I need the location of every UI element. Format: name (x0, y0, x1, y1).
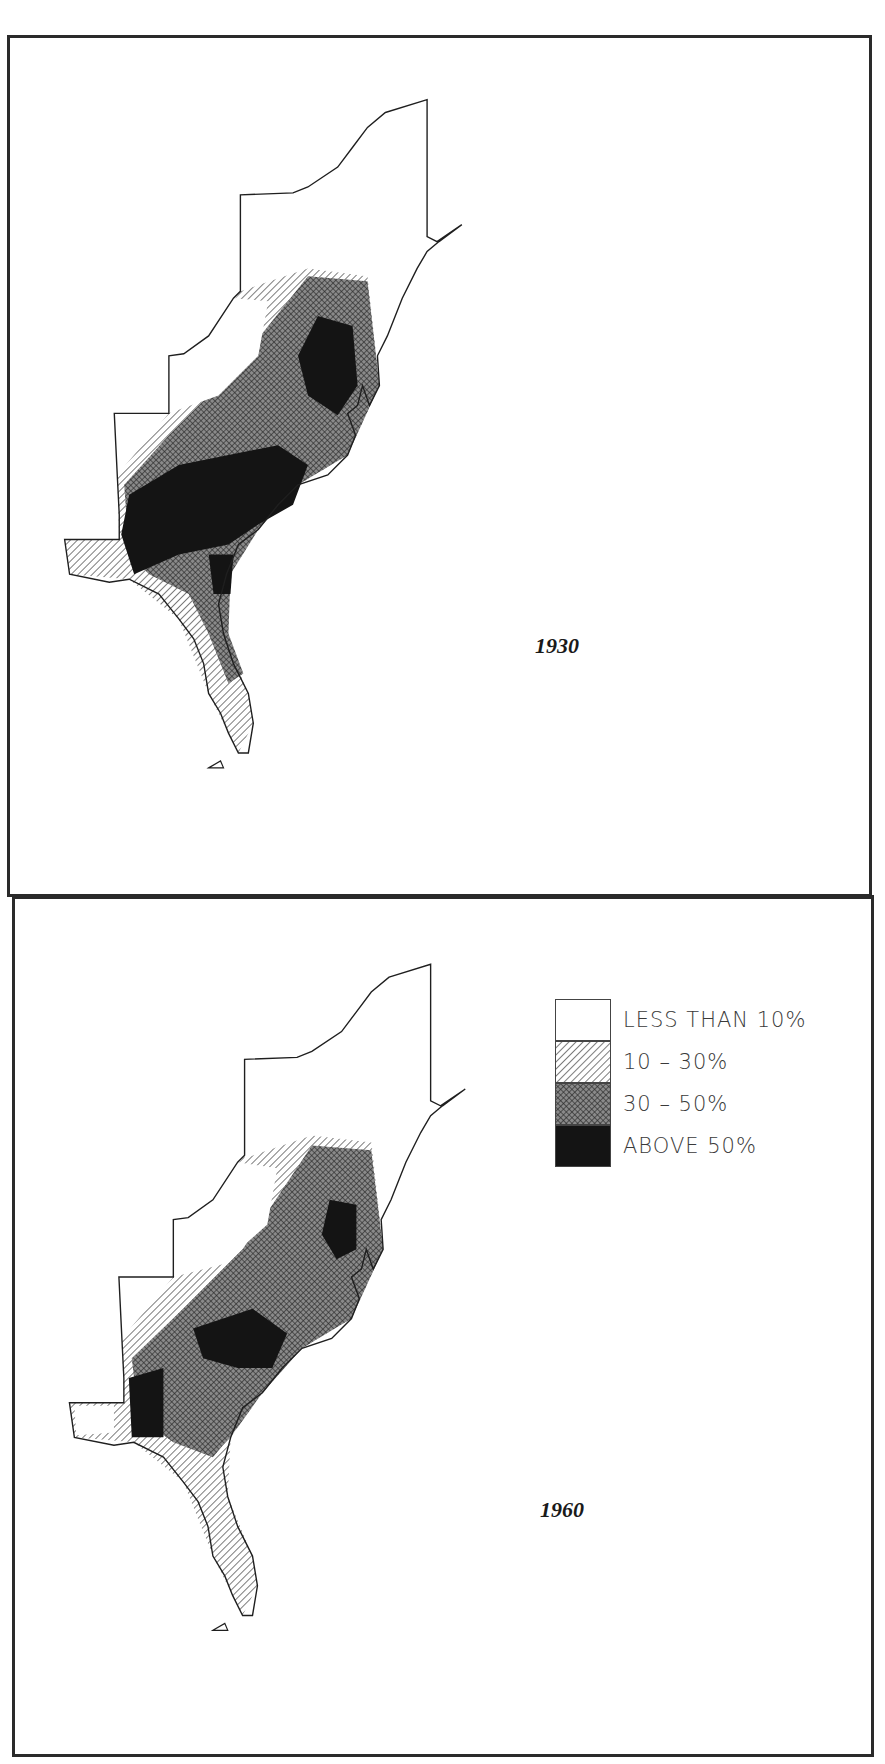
legend-label: 10 – 30% (623, 1050, 728, 1074)
legend-label: ABOVE 50% (623, 1134, 757, 1158)
legend-label: 30 – 50% (623, 1092, 728, 1116)
legend-label: LESS THAN 10% (623, 1008, 806, 1032)
map-panel-1960: 1960 LESS THAN 10% 10 – 30% 30 – 50% ABO… (12, 895, 874, 1757)
legend-swatch-solid (555, 1125, 611, 1167)
legend-swatch-diagonal-hatch (555, 1041, 611, 1083)
year-label-1960: 1960 (540, 1497, 584, 1523)
map-panel-1930: 1930 (7, 35, 872, 897)
legend-swatch-blank (555, 999, 611, 1041)
year-label-1930: 1930 (535, 633, 579, 659)
legend-swatch-cross-hatch (555, 1083, 611, 1125)
choropleth-map-1930 (10, 38, 869, 894)
